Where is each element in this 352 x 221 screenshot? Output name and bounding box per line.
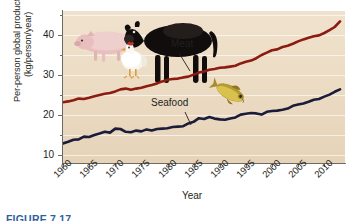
y-axis-title-line2: (kg/person/year)	[23, 12, 33, 77]
y-tick-10	[58, 155, 63, 156]
seafood-line	[63, 89, 340, 143]
seafood-series-label: Seafood	[151, 97, 188, 108]
cow-illustration	[124, 21, 217, 83]
y-tick-20	[58, 115, 63, 116]
y-tick-25	[60, 95, 63, 96]
y-tick-35	[60, 55, 63, 56]
y-tick-label-30: 30	[32, 69, 54, 80]
y-tick-label-40: 40	[32, 29, 54, 40]
y-tick-30	[58, 75, 63, 76]
y-tick-15	[60, 135, 63, 136]
y-axis-title: Per-person global production(kg/person/y…	[12, 0, 35, 119]
meat-series-label: Meat	[171, 38, 193, 49]
fish-illustration	[207, 74, 249, 109]
y-tick-45	[60, 15, 63, 16]
y-tick-label-10: 10	[32, 149, 54, 160]
figure-caption: FIGURE 7.17	[6, 213, 71, 221]
y-tick-40	[58, 35, 63, 36]
plot-area: Meat Seafood	[63, 11, 345, 163]
figure-container: Per-person global production(kg/person/y…	[0, 0, 352, 221]
x-tick-label-1960: 1960	[51, 157, 74, 180]
x-axis-title: Year	[0, 190, 352, 201]
y-axis-title-line1: Per-person global production	[12, 0, 22, 102]
y-tick-label-20: 20	[32, 109, 54, 120]
y-axis-line	[62, 10, 63, 164]
